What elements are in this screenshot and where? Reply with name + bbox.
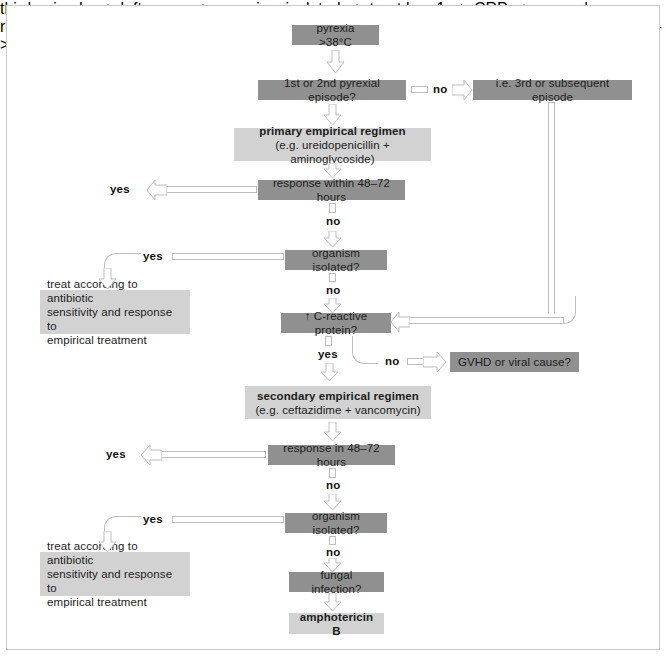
node-treat-antibiotic-2: treat according to antibiotic sensitivit… (40, 552, 190, 596)
edge-label-no-organism-2: no (326, 546, 340, 558)
edge-label-yes-response-primary: yes (110, 183, 130, 195)
node-secondary-regimen-subtitle: (e.g. ceftazidime + vancomycin) (255, 403, 420, 417)
connector-response-secondary-no-stem (329, 468, 336, 478)
arrow-down-to-organism-2 (323, 494, 342, 511)
node-amphotericin-label: amphotericin B (296, 610, 377, 638)
edge-label-yes-crp: yes (318, 348, 338, 360)
node-treat-antibiotic-1-line2: sensitivity and response to (47, 305, 183, 333)
arrow-down-to-organism-1 (323, 231, 342, 248)
node-primary-regimen-subtitle: (e.g. ureidopenicillin + aminoglycoside) (241, 138, 424, 166)
edge-label-yes-organism-1: yes (143, 250, 163, 262)
edge-label-no-response-secondary: no (326, 479, 340, 491)
node-crp: ↑ C-reactive protein? (281, 313, 391, 333)
node-organism-isolated-2: organism isolated? (285, 513, 387, 533)
node-amphotericin: amphotericin B (289, 613, 384, 634)
arrow-down-pyrexia-to-episode (326, 50, 345, 74)
node-organism-isolated-1-label: organism isolated? (292, 246, 380, 274)
connector-organism-2-yes-horizontal (172, 516, 284, 523)
connector-organism-1-yes-horizontal (172, 253, 284, 260)
node-treat-antibiotic-1-line3: empirical treatment (47, 333, 147, 347)
node-response-secondary-label: response in 48–72 hours (275, 441, 388, 469)
arrow-down-to-crp (323, 298, 342, 314)
edge-label-yes-response-secondary: yes (106, 448, 126, 460)
arrow-down-to-fungal (323, 558, 342, 573)
connector-crp-yes-stem (325, 336, 332, 346)
arrow-left-response-primary-yes (146, 179, 167, 201)
node-episode-question: 1st or 2nd pyrexial episode? (258, 80, 406, 100)
node-pyrexia-label: pyrexia >38°C (299, 21, 372, 49)
node-treat-antibiotic-1: treat according to antibiotic sensitivit… (40, 290, 190, 334)
node-third-episode: i.e. 3rd or subsequent episode (473, 80, 632, 100)
node-treat-antibiotic-2-line3: empirical treatment (47, 595, 147, 609)
arrow-right-to-gvhd (423, 351, 447, 373)
node-organism-isolated-2-label: organism isolated? (292, 509, 380, 537)
edge-label-no-organism-1: no (326, 284, 340, 296)
edge-label-no-crp: no (385, 355, 399, 367)
arrow-down-to-amphotericin (323, 593, 342, 612)
connector-response-secondary-yes (160, 451, 266, 458)
arrow-down-secondary-to-response (323, 422, 342, 442)
connector-episode-to-no (411, 86, 428, 93)
node-treat-antibiotic-2-line2: sensitivity and response to (47, 567, 183, 595)
node-response-primary-label: response within 48–72 hours (265, 176, 398, 204)
connector-third-episode-rail-vertical (548, 102, 555, 314)
edge-label-yes-organism-2: yes (143, 513, 163, 525)
connector-third-episode-rail-horizontal (404, 317, 564, 324)
arrow-down-to-treat-2 (98, 531, 117, 553)
node-gvhd-label: GVHD or viral cause? (458, 355, 571, 369)
arrow-down-to-secondary-regimen (320, 363, 339, 382)
edge-label-no-response-primary: no (326, 215, 340, 227)
node-secondary-regimen-title: secondary empirical regimen (257, 389, 419, 403)
connector-response-primary-no-stem (329, 203, 336, 213)
node-pyrexia: pyrexia >38°C (292, 25, 379, 45)
node-fungal: fungal infection? (289, 572, 384, 592)
node-episode-question-label: 1st or 2nd pyrexial episode? (265, 76, 399, 104)
connector-organism-1-no-stem (329, 273, 336, 282)
connector-organism-2-no-stem (329, 536, 336, 545)
node-response-secondary: response in 48–72 hours (268, 445, 395, 465)
connector-crp-no-elbow (352, 336, 378, 364)
arrow-down-episode-to-primary (323, 104, 342, 126)
node-organism-isolated-1: organism isolated? (285, 250, 387, 270)
arrow-left-into-crp (390, 311, 410, 333)
arrow-down-to-treat-1 (98, 268, 117, 290)
node-response-primary: response within 48–72 hours (258, 180, 405, 200)
node-secondary-regimen: secondary empirical regimen (e.g. ceftaz… (245, 386, 431, 419)
arrow-right-to-third-episode (452, 79, 473, 101)
node-gvhd: GVHD or viral cause? (450, 352, 579, 372)
arrow-left-response-secondary-yes (140, 444, 162, 466)
connector-response-primary-yes (165, 186, 257, 193)
arrow-down-primary-to-response (323, 163, 342, 179)
node-primary-regimen: primary empirical regimen (e.g. ureidope… (234, 128, 431, 161)
node-third-episode-label: i.e. 3rd or subsequent episode (480, 76, 625, 104)
edge-label-no-episode: no (433, 83, 447, 95)
flowchart-canvas: pyrexia >38°C 1st or 2nd pyrexial episod… (0, 0, 666, 659)
